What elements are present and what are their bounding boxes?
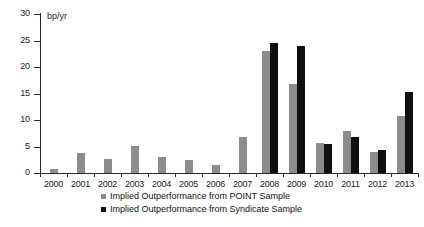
bar <box>185 160 193 173</box>
bar <box>343 131 351 173</box>
x-axis-tick <box>175 173 176 177</box>
bar <box>297 46 305 173</box>
x-axis-tick <box>391 173 392 177</box>
bar-group <box>67 14 94 173</box>
x-axis-tick <box>121 173 122 177</box>
bar-group <box>148 14 175 173</box>
y-axis-tick-label: 20 <box>0 62 30 71</box>
bar-group <box>202 14 229 173</box>
x-axis-tick-label: 2013 <box>388 179 422 189</box>
bar-group <box>229 14 256 173</box>
x-axis-tick <box>283 173 284 177</box>
legend-item: Implied Outperformance from POINT Sample <box>101 191 323 202</box>
plot-area <box>40 14 418 173</box>
bar-group <box>391 14 418 173</box>
bar <box>370 152 378 173</box>
bar-group <box>337 14 364 173</box>
legend-item: Implied Outperformance from Syndicate Sa… <box>101 204 323 215</box>
bar <box>270 43 278 173</box>
y-axis-tick-label: 10 <box>0 115 30 124</box>
y-axis-tick-label: 30 <box>0 9 30 18</box>
x-axis-tick <box>364 173 365 177</box>
bar <box>262 51 270 173</box>
bar <box>212 165 220 173</box>
x-axis-tick <box>148 173 149 177</box>
x-axis-tick <box>418 173 419 177</box>
y-axis-tick-label: 5 <box>0 142 30 151</box>
bar <box>158 157 166 173</box>
bar-group <box>256 14 283 173</box>
bar <box>239 137 247 173</box>
legend-swatch-icon <box>101 207 106 212</box>
bar <box>50 169 58 173</box>
bar-group <box>121 14 148 173</box>
bar <box>131 146 139 173</box>
x-axis-tick <box>40 173 41 177</box>
bar <box>397 116 405 173</box>
x-axis-tick <box>94 173 95 177</box>
bar-group <box>175 14 202 173</box>
bar-group <box>310 14 337 173</box>
x-axis-tick <box>202 173 203 177</box>
x-axis-tick <box>310 173 311 177</box>
bar-chart: bp/yr 051015202530 200020012002200320042… <box>0 0 424 227</box>
bar-group <box>364 14 391 173</box>
legend-label: Implied Outperformance from POINT Sample <box>110 191 290 202</box>
x-axis-tick <box>337 173 338 177</box>
bar <box>405 92 413 173</box>
bar <box>316 143 324 173</box>
bar-group <box>94 14 121 173</box>
bar <box>351 137 359 173</box>
legend-label: Implied Outperformance from Syndicate Sa… <box>110 204 302 215</box>
bar-group <box>283 14 310 173</box>
x-axis-tick <box>256 173 257 177</box>
y-axis-tick-label: 15 <box>0 89 30 98</box>
bar <box>378 150 386 173</box>
bar <box>324 144 332 173</box>
y-axis-tick-label: 0 <box>0 168 30 177</box>
bar <box>77 153 85 173</box>
chart-legend: Implied Outperformance from POINT Sample… <box>0 191 424 215</box>
y-axis-tick-label: 25 <box>0 36 30 45</box>
legend-swatch-icon <box>101 194 106 199</box>
bar <box>289 84 297 173</box>
bar-group <box>40 14 67 173</box>
x-axis-tick <box>229 173 230 177</box>
bar <box>104 159 112 173</box>
x-axis-tick <box>67 173 68 177</box>
